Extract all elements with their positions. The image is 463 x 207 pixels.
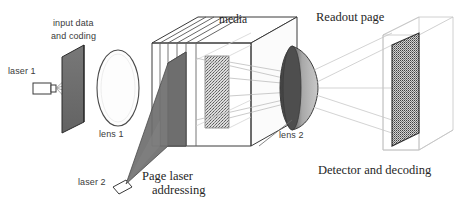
laser1-emitter xyxy=(33,83,56,94)
label-readout-page: Readout page xyxy=(316,10,384,24)
detector-plate xyxy=(392,33,419,146)
readout-beams xyxy=(310,33,392,133)
lens2-element xyxy=(280,46,318,130)
label-media: media xyxy=(219,13,247,26)
label-page-laser: Page laser xyxy=(142,169,193,183)
label-addressing: addressing xyxy=(152,183,205,197)
label-and-coding: and coding xyxy=(51,31,96,41)
label-lens2: lens 2 xyxy=(279,130,304,140)
label-lens1: lens 1 xyxy=(99,129,124,139)
input-data-plate xyxy=(62,45,84,133)
label-input-data: input data xyxy=(53,18,94,28)
label-laser1: laser 1 xyxy=(8,66,36,76)
label-laser2: laser 2 xyxy=(78,177,106,187)
lens1-element xyxy=(97,50,139,126)
laser2-emitter xyxy=(113,180,132,194)
diagram-canvas: input data and coding laser 1 lens 1 med… xyxy=(0,0,463,207)
label-detector-decoding: Detector and decoding xyxy=(318,163,431,177)
